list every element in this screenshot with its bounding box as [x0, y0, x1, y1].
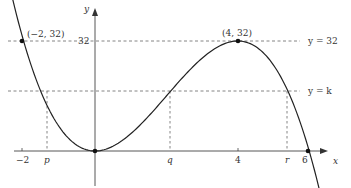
line-label-y32: y = 32: [307, 36, 338, 46]
point-neg2-32: [20, 39, 25, 44]
x-tick-p: p: [44, 155, 50, 165]
cubic-graph: (−2, 32) (4, 32) 32 y x y = 32 y = k −2 …: [0, 0, 351, 188]
y-axis-label: y: [83, 4, 90, 14]
line-label-yk: y = k: [307, 86, 332, 96]
x-tick-r: r: [285, 155, 290, 165]
point-label-4-32: (4, 32): [222, 28, 252, 38]
y-axis-arrow-icon: [92, 8, 98, 16]
x-axis-label: x: [333, 156, 338, 166]
point-label-neg2-32: (−2, 32): [27, 29, 64, 39]
x-tick-4: 4: [235, 155, 241, 165]
point-6-0: [306, 149, 311, 154]
x-axis-arrow-icon: [320, 148, 328, 154]
point-4-32: [236, 39, 241, 44]
point-origin: [93, 149, 98, 154]
x-tick-neg2: −2: [16, 155, 29, 165]
y-tick-32: 32: [78, 36, 89, 46]
x-tick-6: 6: [302, 155, 308, 165]
x-tick-q: q: [167, 155, 173, 165]
